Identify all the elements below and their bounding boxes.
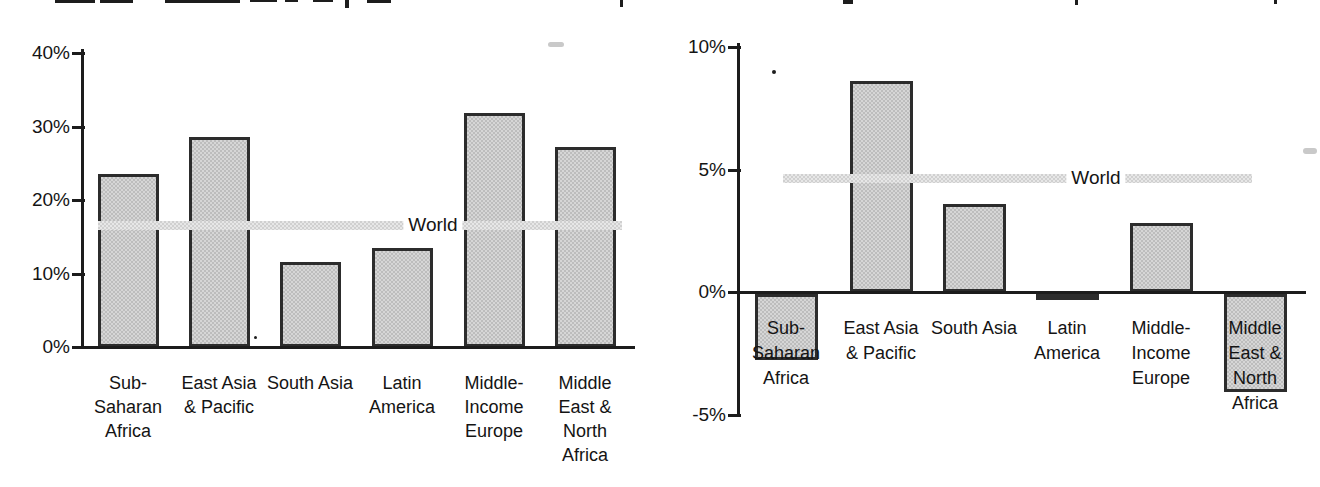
- stray-mark: [285, 0, 298, 2]
- y-tick-label-40%: 40%: [2, 41, 70, 65]
- stray-mark: [313, 0, 333, 2]
- category-label-line: East &: [558, 395, 611, 419]
- bar-south-asia: [280, 262, 341, 347]
- y-tick-label-10%: 10%: [2, 262, 70, 286]
- stray-mark: [367, 0, 391, 3]
- stray-mark: [1303, 148, 1317, 154]
- stray-mark: [100, 0, 133, 3]
- category-label-line: Latin: [1034, 316, 1100, 341]
- category-label-latin-america: LatinAmerica: [1034, 316, 1100, 366]
- category-label-line: America: [369, 395, 435, 419]
- category-label-line: Africa: [1228, 391, 1281, 416]
- stray-mark: [1274, 0, 1277, 4]
- category-label-line: Africa: [752, 366, 820, 391]
- y-axis-line: [81, 49, 84, 347]
- category-label-east-asia-pacific: East Asia& Pacific: [843, 316, 918, 366]
- stray-mark: [345, 0, 349, 8]
- category-label-line: Africa: [94, 419, 162, 443]
- category-label-line: South Asia: [267, 371, 353, 395]
- y-axis-line: [737, 43, 740, 417]
- world-reference-label: World: [403, 213, 462, 237]
- y-tick-label--5%: -5%: [658, 403, 726, 427]
- x-axis-line: [81, 346, 635, 349]
- stray-mark: [620, 0, 623, 7]
- world-reference-line: [783, 174, 1252, 183]
- category-label-south-asia: South Asia: [931, 316, 1017, 341]
- y-tick-40%: [72, 52, 85, 55]
- y-tick-20%: [72, 199, 85, 202]
- y-tick-label-20%: 20%: [2, 188, 70, 212]
- bar-middle-income-europe: [1130, 223, 1193, 292]
- category-label-line: North: [1228, 366, 1281, 391]
- bar-sub-saharan-africa: [98, 174, 159, 347]
- y-tick-label-0%: 0%: [2, 335, 70, 359]
- stray-mark: [843, 0, 853, 4]
- bar-latin-america: [1036, 294, 1099, 300]
- y-tick-0%: [72, 346, 85, 349]
- stray-mark: [250, 0, 277, 2]
- y-tick-label-5%: 5%: [658, 158, 726, 182]
- bar-latin-america: [372, 248, 433, 347]
- y-tick-10%: [728, 46, 741, 49]
- stray-mark: [1075, 0, 1078, 5]
- category-label-latin-america: LatinAmerica: [369, 371, 435, 419]
- category-label-middle-east-north-africa: MiddleEast &NorthAfrica: [558, 371, 611, 467]
- category-label-line: & Pacific: [181, 395, 256, 419]
- y-tick-10%: [72, 273, 85, 276]
- category-label-sub-saharan-africa: Sub-SaharanAfrica: [94, 371, 162, 443]
- category-label-line: Middle-: [1131, 316, 1190, 341]
- stray-mark: [55, 0, 95, 3]
- category-label-line: Income: [464, 395, 523, 419]
- stray-mark: [772, 70, 776, 74]
- stray-mark: [165, 0, 240, 3]
- bar-middle-east-north-africa: [555, 147, 616, 347]
- category-label-line: North: [558, 419, 611, 443]
- y-tick-0%: [728, 291, 741, 294]
- bar-east-asia-pacific: [189, 137, 250, 347]
- bar-middle-income-europe: [464, 113, 525, 347]
- category-label-east-asia-pacific: East Asia& Pacific: [181, 371, 256, 419]
- y-tick-label-30%: 30%: [2, 115, 70, 139]
- category-label-line: East Asia: [843, 316, 918, 341]
- category-label-line: East Asia: [181, 371, 256, 395]
- category-label-line: South Asia: [931, 316, 1017, 341]
- category-label-middle-income-europe: Middle-IncomeEurope: [464, 371, 523, 443]
- category-label-line: America: [1034, 341, 1100, 366]
- category-label-line: Saharan: [94, 395, 162, 419]
- category-label-middle-income-europe: Middle-IncomeEurope: [1131, 316, 1190, 391]
- category-label-line: Africa: [558, 443, 611, 467]
- y-tick-label-10%: 10%: [658, 35, 726, 59]
- bar-south-asia: [943, 204, 1006, 292]
- category-label-south-asia: South Asia: [267, 371, 353, 395]
- y-tick-5%: [728, 169, 741, 172]
- y-tick--5%: [728, 414, 741, 417]
- category-label-line: Sub-: [752, 316, 820, 341]
- bar-east-asia-pacific: [850, 81, 913, 292]
- category-label-line: East &: [1228, 341, 1281, 366]
- category-label-line: Europe: [464, 419, 523, 443]
- category-label-line: Middle: [558, 371, 611, 395]
- stray-mark: [254, 336, 257, 339]
- category-label-line: & Pacific: [843, 341, 918, 366]
- x-axis-line: [737, 291, 1306, 294]
- world-reference-line: [98, 221, 622, 230]
- category-label-line: Income: [1131, 341, 1190, 366]
- category-label-sub-saharan-africa: Sub-SaharanAfrica: [752, 316, 820, 391]
- category-label-line: Latin: [369, 371, 435, 395]
- y-tick-30%: [72, 126, 85, 129]
- category-label-line: Europe: [1131, 366, 1190, 391]
- y-tick-label-0%: 0%: [658, 280, 726, 304]
- world-reference-label: World: [1066, 166, 1125, 190]
- category-label-line: Middle: [1228, 316, 1281, 341]
- scanned-figure-page: World40%30%20%10%0%Sub-SaharanAfricaEast…: [0, 0, 1320, 487]
- stray-mark: [548, 42, 564, 47]
- category-label-line: Saharan: [752, 341, 820, 366]
- category-label-line: Sub-: [94, 371, 162, 395]
- category-label-middle-east-north-africa: MiddleEast &NorthAfrica: [1228, 316, 1281, 416]
- category-label-line: Middle-: [464, 371, 523, 395]
